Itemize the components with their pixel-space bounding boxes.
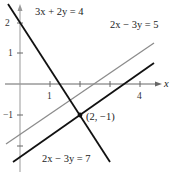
y-tick-label-2: 2	[5, 18, 10, 28]
label-eq1: 3x + 2y = 4	[35, 6, 84, 17]
intersection-point	[78, 113, 83, 118]
y-axis-arrow-icon	[18, 4, 23, 11]
y-tick-label-m1: −1	[3, 110, 13, 120]
label-eq2: 2x − 3y = 5	[110, 19, 159, 30]
line-2x-3y-7	[13, 63, 154, 162]
x-tick-label-1: 1	[47, 91, 52, 101]
chart-canvas: 1 4 2 1 −1 x 3x + 2y = 4 2x − 3y = 5 2x …	[0, 0, 172, 177]
x-axis-label: x	[163, 78, 169, 89]
y-tick-label-1: 1	[8, 48, 13, 58]
label-eq3: 2x − 3y = 7	[42, 153, 91, 164]
x-axis-arrow-icon	[155, 82, 162, 87]
x-tick-label-4: 4	[137, 91, 142, 101]
label-point: (2, −1)	[86, 111, 115, 123]
line-2x-3y-5	[6, 43, 154, 144]
